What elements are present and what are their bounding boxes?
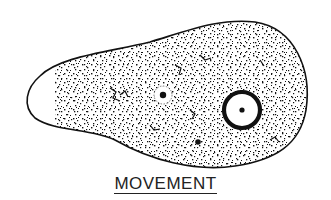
amoeba-figure: MOVEMENT — [0, 0, 331, 200]
figure-caption: MOVEMENT — [0, 174, 331, 194]
food-vacuole — [154, 86, 172, 104]
nucleus — [224, 92, 260, 128]
small-vacuole — [195, 139, 201, 145]
amoeba-cell-drawing — [0, 0, 331, 200]
caption-text: MOVEMENT — [114, 174, 216, 194]
